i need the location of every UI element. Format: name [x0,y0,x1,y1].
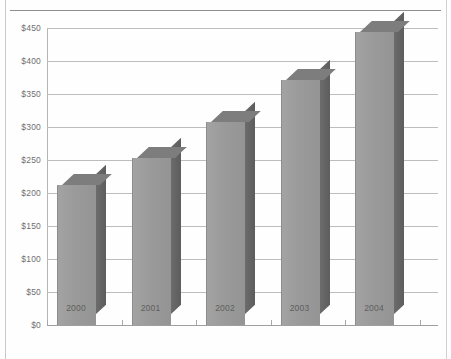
bar-2002[interactable] [206,122,244,325]
bar-2001[interactable] [132,158,170,325]
bar-side-face [95,165,106,315]
y-axis-tick-label: $0 [1,320,41,330]
y-axis-tick-label: $150 [1,221,41,231]
plot-area: $0$50$100$150$200$250$300$350$400$450 [47,28,438,325]
x-axis-tick-label: 2002 [188,303,262,313]
bar-2003[interactable] [281,80,319,325]
category-separator [196,320,197,325]
category-separator [47,320,48,325]
y-axis-tick-label: $300 [1,122,41,132]
category-separator [271,320,272,325]
axis-baseline [47,325,438,326]
bar-side-face [244,102,255,315]
y-axis-tick-label: $200 [1,188,41,198]
x-axis-tick-label: 2003 [263,303,337,313]
bar-front-face [132,158,171,325]
y-axis-tick-label: $450 [1,23,41,33]
bar-chart: $0$50$100$150$200$250$300$350$400$450 20… [0,0,451,359]
y-axis-tick-label: $400 [1,56,41,66]
bar-front-face [355,32,394,325]
x-axis-tick-label: 2004 [337,303,411,313]
category-separator [122,320,123,325]
bar-side-face [319,60,330,315]
category-separator [345,320,346,325]
x-axis-tick-label: 2000 [39,303,113,313]
bar-side-face [393,12,404,315]
category-separator [420,320,421,325]
bar-front-face [281,80,320,325]
y-axis-tick-label: $250 [1,155,41,165]
bar-2004[interactable] [355,32,393,325]
y-axis-tick-label: $350 [1,89,41,99]
bar-side-face [170,138,181,315]
bar-front-face [206,122,245,325]
x-axis-tick-label: 2001 [114,303,188,313]
scanned-page: $0$50$100$150$200$250$300$350$400$450 20… [0,0,451,359]
y-axis-line [47,28,48,325]
y-axis-tick-label: $100 [1,254,41,264]
y-axis-tick-label: $50 [1,287,41,297]
